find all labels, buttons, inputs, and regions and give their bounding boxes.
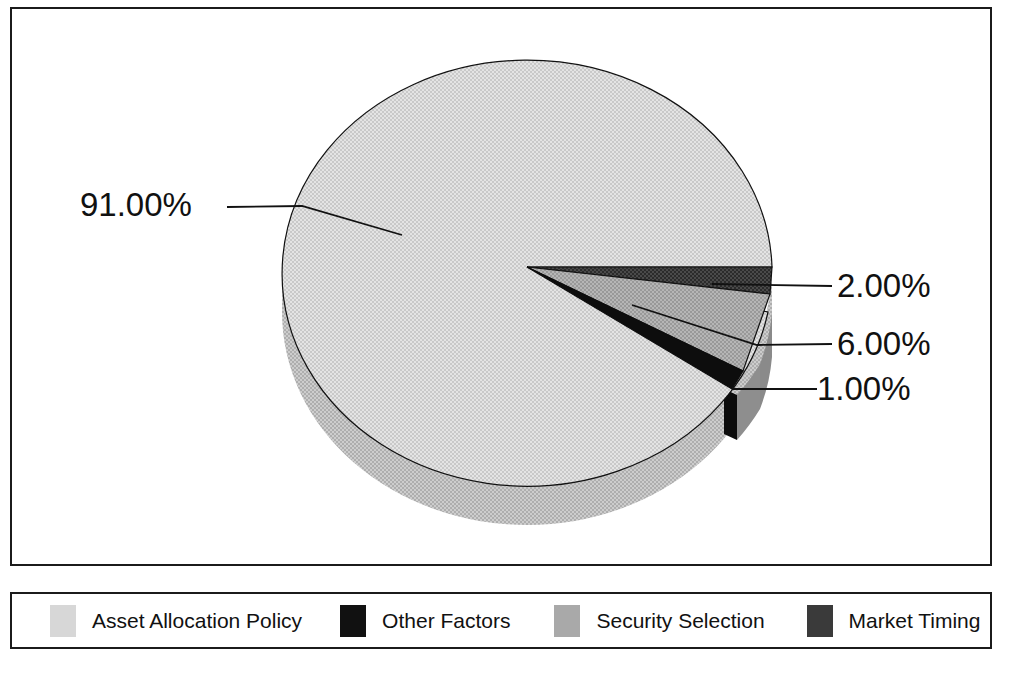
slice-label-asset-allocation-policy: 91.00%: [80, 186, 192, 224]
slice-label-market-timing: 2.00%: [837, 267, 931, 305]
pie-chart-figure: 91.00% 2.00% 6.00% 1.00% Asset Allocatio…: [0, 0, 1010, 674]
legend-label-asset-allocation-policy: Asset Allocation Policy: [92, 609, 302, 633]
pie-top-face: [282, 60, 772, 486]
plot-area-frame: 91.00% 2.00% 6.00% 1.00%: [10, 7, 992, 566]
legend-item-security-selection[interactable]: Security Selection: [554, 605, 764, 637]
legend-label-other-factors: Other Factors: [382, 609, 510, 633]
pie-plot-area: 91.00% 2.00% 6.00% 1.00%: [12, 9, 994, 568]
legend: Asset Allocation Policy Other Factors Se…: [10, 592, 992, 649]
legend-swatch-security-selection: [554, 605, 580, 637]
legend-label-market-timing: Market Timing: [849, 609, 981, 633]
legend-item-market-timing[interactable]: Market Timing: [807, 605, 981, 637]
slice-label-other-factors: 1.00%: [817, 370, 911, 408]
legend-swatch-market-timing: [807, 605, 833, 637]
legend-swatch-other-factors: [340, 605, 366, 637]
legend-item-other-factors[interactable]: Other Factors: [340, 605, 510, 637]
legend-item-asset-allocation-policy[interactable]: Asset Allocation Policy: [50, 605, 302, 637]
legend-items: Asset Allocation Policy Other Factors Se…: [12, 594, 990, 647]
legend-label-security-selection: Security Selection: [596, 609, 764, 633]
slice-label-security-selection: 6.00%: [837, 325, 931, 363]
legend-swatch-asset-allocation-policy: [50, 605, 76, 637]
